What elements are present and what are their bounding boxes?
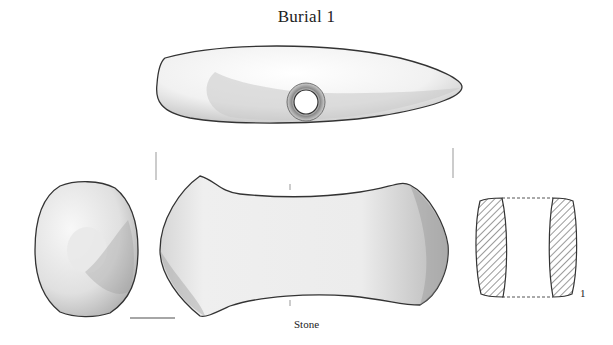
top-view xyxy=(157,46,462,123)
material-caption: Stone xyxy=(0,318,613,330)
cross-section xyxy=(476,198,577,297)
side-view xyxy=(160,176,448,316)
section-number: 1 xyxy=(580,287,586,299)
end-view xyxy=(35,182,138,317)
artifact-drawing xyxy=(0,0,613,345)
